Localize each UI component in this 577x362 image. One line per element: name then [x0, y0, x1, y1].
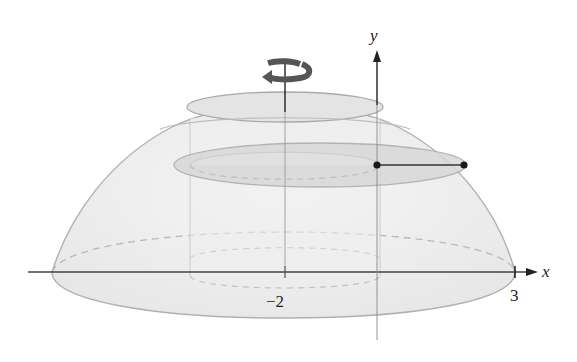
tick-label-3: 3 — [510, 286, 519, 306]
solid-of-revolution-diagram: y x −2 3 — [0, 0, 577, 362]
x-axis-label: x — [542, 262, 550, 282]
point-on-curve — [460, 161, 467, 168]
point-on-axis — [373, 161, 380, 168]
diagram-canvas — [0, 0, 577, 362]
tick-label-minus-2: −2 — [266, 292, 284, 312]
y-axis-label: y — [370, 26, 378, 46]
